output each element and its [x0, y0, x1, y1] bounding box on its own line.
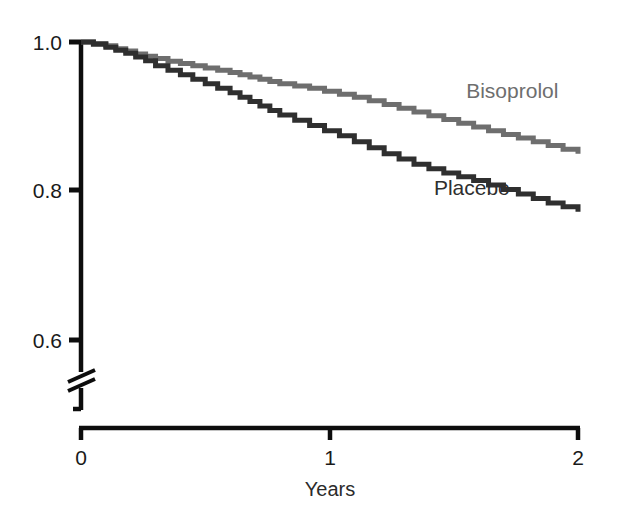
x-axis-title: Years [305, 478, 355, 500]
x-tick-label-0: 0 [75, 446, 87, 469]
series-label-bisoprolol: Bisoprolol [466, 79, 558, 102]
chart-svg: 1.0 0.8 0.6 0 1 2 Years Bisoprolol Place… [0, 0, 624, 508]
survival-curve-figure: 1.0 0.8 0.6 0 1 2 Years Bisoprolol Place… [0, 0, 624, 508]
y-tick-label-0-8: 0.8 [33, 179, 62, 202]
x-tick-label-2: 2 [572, 446, 584, 469]
y-tick-label-1-0: 1.0 [33, 31, 62, 54]
y-tick-label-0-6: 0.6 [33, 329, 62, 352]
chart-background [0, 0, 624, 508]
x-tick-label-1: 1 [324, 446, 336, 469]
series-label-placebo: Placebo [434, 176, 510, 199]
